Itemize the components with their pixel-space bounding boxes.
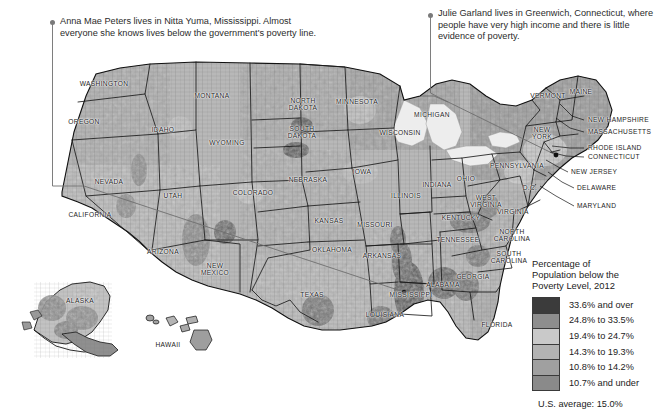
legend-row: 19.4% to 24.7% <box>532 328 668 344</box>
legend-row: 10.8% to 14.2% <box>532 359 668 375</box>
legend-color-chip <box>532 375 560 391</box>
legend-row: 14.3% to 19.3% <box>532 344 668 360</box>
legend-class-label: 10.7% and under <box>569 378 639 388</box>
callout-left-dot <box>50 20 55 25</box>
map-legend: Percentage of Population below the Pover… <box>532 258 668 409</box>
legend-color-chip <box>532 359 560 375</box>
legend-row: 33.6% and over <box>532 297 668 313</box>
legend-color-chip <box>532 297 560 313</box>
hawaii-inset <box>146 315 212 350</box>
legend-class-label: 10.8% to 14.2% <box>569 362 634 372</box>
legend-title: Percentage of Population below the Pover… <box>532 258 668 291</box>
legend-color-chip <box>532 344 560 360</box>
callout-julie-garland: Julie Garland lives in Greenwich, Connec… <box>438 8 666 43</box>
legend-class-label: 24.8% to 33.5% <box>569 315 634 325</box>
nitta-yuma-marker <box>402 290 406 294</box>
legend-row: 24.8% to 33.5% <box>532 313 668 329</box>
legend-color-chip <box>532 313 560 329</box>
legend-swatch-list: 33.6% and over24.8% to 33.5%19.4% to 24.… <box>532 297 668 391</box>
callout-anna-mae-peters: Anna Mae Peters lives in Nitta Yuma, Mis… <box>60 16 328 39</box>
legend-class-label: 33.6% and over <box>569 300 633 310</box>
map-figure: WASHINGTONOREGONIDAHOMONTANAWYOMINGNEVAD… <box>0 0 671 412</box>
legend-average-note: U.S. average: 15.0% <box>538 399 668 409</box>
callout-right-text: Julie Garland lives in Greenwich, Connec… <box>438 8 653 41</box>
callout-left-text: Anna Mae Peters lives in Nitta Yuma, Mis… <box>60 16 316 38</box>
legend-row: 10.7% and under <box>532 375 668 391</box>
legend-class-label: 14.3% to 19.3% <box>569 347 634 357</box>
alaska-inset <box>22 278 118 358</box>
callout-right-dot <box>428 13 433 18</box>
legend-class-label: 19.4% to 24.7% <box>569 331 634 341</box>
legend-color-chip <box>532 328 560 344</box>
